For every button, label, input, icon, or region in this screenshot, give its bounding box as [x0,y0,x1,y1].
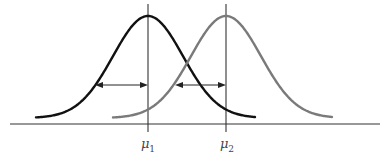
spread-arrows [95,82,226,88]
arrow-head-right-icon [218,82,226,88]
normal-curves-diagram [0,0,386,162]
distribution-1-curve [36,16,255,117]
arrow-head-right-icon [140,82,148,88]
curves [36,16,332,117]
distribution-2-curve [113,16,332,117]
mean-label-1: μ1 [141,136,155,154]
mean-label-2: μ2 [220,136,234,154]
